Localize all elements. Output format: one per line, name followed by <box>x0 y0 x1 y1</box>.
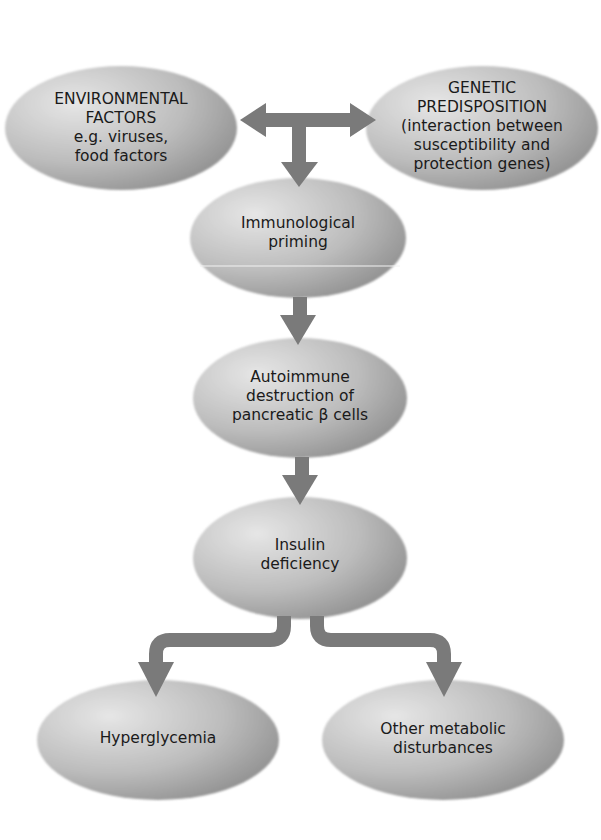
node-other-line-2: disturbances <box>393 739 493 758</box>
arrow-insulin-branches <box>156 616 444 664</box>
node-immunological-line-1: Immunological <box>241 214 355 233</box>
node-insulin: Insulin deficiency <box>200 534 400 576</box>
node-environmental-line-4: food factors <box>75 147 168 166</box>
node-genetic-line-4: susceptibility and <box>414 136 550 155</box>
arrow-immunological-to-autoimmune <box>280 297 316 345</box>
node-immunological: Immunological priming <box>198 212 398 254</box>
node-autoimmune-line-3: pancreatic β cells <box>232 406 368 425</box>
node-genetic-line-2: PREDISPOSITION <box>417 98 547 117</box>
node-environmental: ENVIRONMENTAL FACTORS e.g. viruses, food… <box>21 82 221 174</box>
node-environmental-line-2: FACTORS <box>86 109 157 128</box>
node-autoimmune-line-2: destruction of <box>246 387 354 406</box>
node-hyperglycemia: Hyperglycemia <box>58 726 258 750</box>
node-genetic-line-3: (interaction between <box>401 117 563 136</box>
node-hyperglycemia-line-1: Hyperglycemia <box>100 729 217 748</box>
node-insulin-line-2: deficiency <box>260 555 339 574</box>
node-other: Other metabolic disturbances <box>343 718 543 760</box>
node-genetic-line-1: GENETIC <box>448 79 516 98</box>
arrow-junction <box>240 103 376 187</box>
node-environmental-line-1: ENVIRONMENTAL <box>54 90 187 109</box>
node-environmental-line-3: e.g. viruses, <box>74 128 168 147</box>
node-autoimmune-line-1: Autoimmune <box>250 368 350 387</box>
node-immunological-line-2: priming <box>268 233 328 252</box>
node-autoimmune: Autoimmune destruction of pancreatic β c… <box>200 364 400 428</box>
node-genetic: GENETIC PREDISPOSITION (interaction betw… <box>377 74 587 178</box>
node-genetic-line-5: protection genes) <box>414 155 551 174</box>
node-other-line-1: Other metabolic <box>380 720 506 739</box>
node-insulin-line-1: Insulin <box>275 536 326 555</box>
